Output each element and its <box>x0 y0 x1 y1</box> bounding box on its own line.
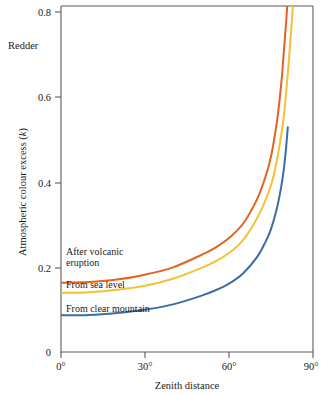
y-axis-title-main: Atmospheric colour excess ( <box>17 136 29 256</box>
series-label-after-volcanic-eruption-line2: eruption <box>66 257 99 268</box>
y-axis-ticks <box>55 12 61 268</box>
x-tick-label-60: 60° <box>222 361 237 372</box>
series-label-after-volcanic-eruption-line1: After volcanic <box>66 246 124 257</box>
y-tick-label-0.6: 0.6 <box>38 92 51 103</box>
series-label-from-sea-level: From sea level <box>66 279 125 290</box>
atmospheric-colour-excess-chart: 0.8 0.6 0.4 0.2 0 0° 30° 60° 90° Zenith … <box>0 0 327 394</box>
y-tick-label-0.8: 0.8 <box>38 7 51 18</box>
y-axis-title-group: Atmospheric colour excess (k) <box>17 127 29 256</box>
curve-after-volcanic-eruption <box>61 0 288 283</box>
y-axis-title-close: ) <box>17 127 29 131</box>
y-tick-label-0.4: 0.4 <box>38 178 52 189</box>
y-axis-tick-labels: 0.8 0.6 0.4 0.2 0 <box>38 7 52 358</box>
redder-annotation: Redder <box>8 40 39 51</box>
x-axis-title: Zenith distance <box>155 380 220 391</box>
series-labels: After volcanic eruption From sea level F… <box>66 246 150 314</box>
x-tick-label-90: 90° <box>304 361 319 372</box>
series-curves <box>61 0 293 315</box>
figure-container: 0.8 0.6 0.4 0.2 0 0° 30° 60° 90° Zenith … <box>0 0 327 394</box>
x-axis-ticks <box>61 352 313 358</box>
y-axis-title: Atmospheric colour excess (k) <box>17 127 29 256</box>
y-tick-label-0.2: 0.2 <box>38 263 51 274</box>
series-label-from-clear-mountain: From clear mountain <box>66 303 150 314</box>
x-tick-label-0: 0° <box>56 361 65 372</box>
x-axis-tick-labels: 0° 30° 60° 90° <box>56 361 318 372</box>
x-tick-label-30: 30° <box>138 361 153 372</box>
y-tick-label-0: 0 <box>46 347 51 358</box>
